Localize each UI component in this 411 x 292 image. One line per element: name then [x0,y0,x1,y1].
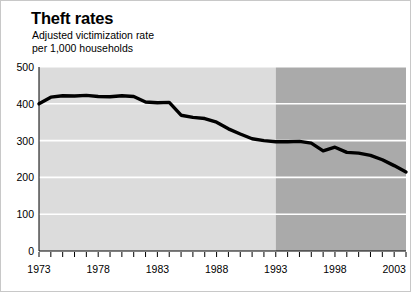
y-tick-label-300: 300 [16,135,34,147]
x-tick-label-1978: 1978 [87,263,111,275]
x-tick-label-1983: 1983 [146,263,170,275]
x-tick-label-1973: 1973 [27,263,51,275]
x-tick-label-2003: 2003 [382,263,406,275]
y-tick-label-100: 100 [16,208,34,220]
x-tick-label-1988: 1988 [205,263,229,275]
theft-rates-line-chart: 0100200300400500 19731978198319881993199… [1,1,411,292]
y-tick-label-500: 500 [16,61,34,73]
panel-region-post-1993 [276,67,406,251]
y-tick-label-0: 0 [28,245,34,257]
chart-plot-area: 0100200300400500 19731978198319881993199… [1,1,411,292]
x-axis-labels: 1973197819831988199319982003 [27,263,406,275]
chart-frame: Theft rates Adjusted victimization rate … [0,0,411,292]
y-tick-label-400: 400 [16,98,34,110]
x-tick-label-1993: 1993 [264,263,288,275]
y-tick-label-200: 200 [16,171,34,183]
y-axis-labels: 0100200300400500 [16,61,34,257]
x-tick-label-1998: 1998 [323,263,347,275]
x-axis-ticks [39,252,406,257]
